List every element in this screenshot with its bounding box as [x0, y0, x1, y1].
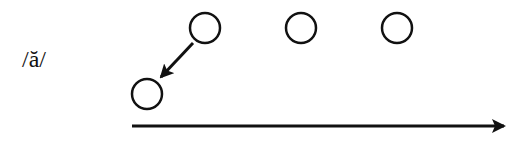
- diagonal-arrow-icon: [161, 43, 193, 77]
- circle-top-2: [286, 13, 316, 43]
- circle-bottom: [132, 79, 162, 109]
- diagram-canvas: [0, 0, 530, 143]
- circle-top-1: [190, 13, 220, 43]
- circle-top-3: [382, 13, 412, 43]
